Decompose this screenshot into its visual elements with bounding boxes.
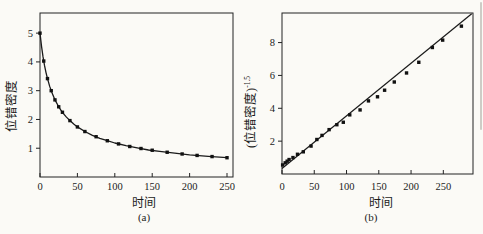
data-point: [309, 144, 312, 147]
data-point: [117, 142, 120, 145]
data-point: [151, 149, 154, 152]
data-point: [383, 89, 386, 92]
data-point: [367, 99, 370, 102]
y-tick-label: 3: [28, 85, 33, 96]
y-tick-label: 4: [28, 56, 34, 67]
subplot-caption: (a): [138, 211, 151, 224]
x-tick-label: 250: [435, 181, 451, 192]
y-tick-label: 8: [270, 37, 275, 48]
data-point: [302, 150, 305, 153]
x-tick-label: 150: [371, 181, 387, 192]
data-point: [165, 151, 168, 154]
x-axis-label: 时间: [369, 196, 393, 210]
x-tick-label: 200: [182, 181, 198, 192]
subplot-caption: (b): [365, 211, 378, 224]
data-point: [376, 95, 379, 98]
data-point: [57, 105, 60, 108]
data-point: [46, 77, 49, 80]
y-tick-label: 5: [28, 28, 33, 39]
data-point: [68, 119, 71, 122]
chart-b: 0501001502002502468时间(位错密度)-1.5(b): [242, 0, 483, 234]
data-point: [210, 155, 213, 158]
data-point: [327, 128, 330, 131]
data-point: [315, 138, 318, 141]
data-point: [94, 135, 97, 138]
data-point: [76, 125, 79, 128]
y-tick-label: 2: [28, 114, 33, 125]
data-point: [320, 134, 323, 137]
x-axis-label: 时间: [132, 196, 156, 210]
plot-frame: [40, 13, 233, 177]
x-tick-label: 0: [279, 181, 284, 192]
chart-a: 05010015020025012345时间位错密度(a): [0, 0, 242, 234]
page-edge-artifact: [480, 2, 482, 130]
data-point: [358, 108, 361, 111]
x-tick-label: 50: [309, 181, 320, 192]
data-point: [348, 113, 351, 116]
data-point: [42, 59, 45, 62]
data-point: [460, 24, 463, 27]
y-tick-label: 1: [28, 143, 33, 154]
x-tick-label: 150: [144, 181, 160, 192]
data-point: [441, 38, 444, 41]
x-tick-label: 100: [339, 181, 355, 192]
data-point: [139, 147, 142, 150]
data-point: [106, 139, 109, 142]
y-axis-label: 位错密度: [4, 80, 19, 132]
data-point: [335, 123, 338, 126]
x-tick-label: 50: [72, 181, 83, 192]
y-tick-label: 4: [270, 103, 276, 114]
data-point: [393, 80, 396, 83]
data-point: [38, 31, 41, 34]
data-curve: [40, 33, 227, 158]
x-tick-label: 200: [403, 181, 419, 192]
x-tick-label: 250: [219, 181, 235, 192]
plot-frame: [282, 13, 473, 174]
data-point: [342, 121, 345, 124]
data-point: [296, 153, 299, 156]
y-tick-label: 2: [270, 136, 275, 147]
data-point: [417, 61, 420, 64]
data-point: [50, 89, 53, 92]
x-tick-label: 100: [107, 181, 123, 192]
y-axis-label: (位错密度)-1.5: [243, 76, 258, 148]
data-point: [180, 152, 183, 155]
data-point: [53, 98, 56, 101]
data-point: [405, 71, 408, 74]
data-point: [287, 158, 290, 161]
data-point: [225, 156, 228, 159]
data-point: [61, 111, 64, 114]
data-point: [83, 130, 86, 133]
data-point: [128, 145, 131, 148]
data-point: [195, 154, 198, 157]
data-point: [431, 46, 434, 49]
x-tick-label: 0: [37, 181, 42, 192]
recovery-kinetics-figure: 05010015020025012345时间位错密度(a) 0501001502…: [0, 0, 483, 234]
y-tick-label: 6: [270, 70, 275, 81]
data-point: [291, 156, 294, 159]
